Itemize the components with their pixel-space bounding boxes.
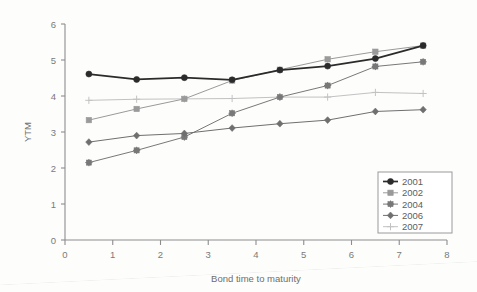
marker-circle — [277, 67, 283, 73]
data-point-2006-4.5 — [277, 120, 283, 127]
y-tick-label-6: 6 — [51, 19, 56, 30]
legend-marker-2002 — [388, 190, 393, 195]
marker-circle — [372, 56, 378, 62]
y-tick-label-4: 4 — [51, 91, 56, 102]
x-tick-label-8: 8 — [444, 249, 449, 260]
x-tick-label-1: 1 — [110, 249, 115, 260]
data-point-2004-4.5 — [276, 93, 283, 100]
x-tick-label-7: 7 — [397, 249, 402, 260]
data-point-2006-7.5 — [420, 106, 426, 113]
marker-diamond — [277, 120, 283, 127]
marker-diamond — [372, 108, 378, 115]
y-axis-title: YTM — [22, 122, 33, 142]
data-point-2007-0.5 — [85, 97, 92, 104]
series-2001 — [86, 43, 426, 83]
legend-label-2006: 2006 — [402, 210, 423, 221]
legend-label-2007: 2007 — [402, 221, 423, 232]
data-point-2006-5.5 — [324, 117, 330, 124]
marker-circle — [86, 71, 92, 77]
marker-square — [134, 106, 139, 111]
data-point-2004-6.5 — [372, 63, 379, 70]
data-point-2006-3.5 — [229, 125, 235, 132]
series-line-2006 — [89, 110, 423, 142]
marker-diamond — [86, 139, 92, 146]
x-tick-label-6: 6 — [349, 249, 354, 260]
data-point-2004-1.5 — [133, 147, 140, 154]
marker-diamond — [324, 117, 330, 124]
data-point-2001-6.5 — [372, 56, 378, 62]
data-point-2002-5.5 — [325, 57, 330, 62]
x-tick-label-2: 2 — [158, 249, 163, 260]
series-2006 — [86, 106, 427, 145]
data-point-2002-2.5 — [182, 96, 187, 101]
data-point-2001-0.5 — [86, 71, 92, 77]
legend-marker-2001 — [388, 179, 394, 185]
marker-circle — [388, 179, 394, 185]
data-point-2007-7.5 — [420, 90, 427, 97]
ytm-line-chart: 0123456012345678Bond time to maturityYTM… — [0, 0, 477, 292]
data-point-2006-0.5 — [86, 139, 92, 146]
data-point-2007-1.5 — [133, 96, 140, 103]
data-point-2001-4.5 — [277, 67, 283, 73]
legend-label-2001: 2001 — [402, 176, 423, 187]
y-tick-label-2: 2 — [51, 163, 56, 174]
legend-marker-2004 — [387, 201, 394, 208]
data-point-2002-6.5 — [373, 49, 378, 54]
y-tick-label-0: 0 — [51, 235, 56, 246]
marker-circle — [420, 43, 426, 49]
marker-square — [373, 49, 378, 54]
marker-square — [388, 190, 393, 195]
marker-circle — [325, 63, 331, 69]
marker-diamond — [420, 106, 426, 113]
series-2007 — [85, 89, 426, 104]
x-tick-label-4: 4 — [253, 249, 258, 260]
marker-circle — [229, 77, 235, 83]
chart-container: 0123456012345678Bond time to maturityYTM… — [0, 0, 477, 292]
x-tick-label-5: 5 — [301, 249, 306, 260]
y-tick-label-5: 5 — [51, 55, 56, 66]
data-point-2007-6.5 — [372, 89, 379, 96]
data-point-2001-3.5 — [229, 77, 235, 83]
marker-diamond — [229, 125, 235, 132]
data-point-2006-1.5 — [133, 132, 139, 139]
data-point-2001-1.5 — [134, 76, 140, 82]
x-tick-label-0: 0 — [62, 249, 67, 260]
data-point-2004-3.5 — [229, 110, 236, 117]
data-point-2004-7.5 — [420, 58, 427, 65]
data-point-2006-6.5 — [372, 108, 378, 115]
data-point-2001-7.5 — [420, 43, 426, 49]
marker-diamond — [133, 132, 139, 139]
y-tick-label-1: 1 — [51, 199, 56, 210]
legend-label-2002: 2002 — [402, 187, 423, 198]
data-point-2001-2.5 — [181, 75, 187, 81]
data-point-2002-0.5 — [86, 117, 91, 122]
marker-circle — [181, 75, 187, 81]
y-tick-label-3: 3 — [51, 127, 56, 138]
legend[interactable]: 20012002200420062007 — [378, 172, 452, 233]
marker-square — [86, 117, 91, 122]
data-point-2001-5.5 — [325, 63, 331, 69]
data-point-2004-5.5 — [324, 82, 331, 89]
data-point-2004-0.5 — [85, 159, 92, 166]
data-point-2007-3.5 — [229, 95, 236, 102]
marker-circle — [134, 76, 140, 82]
data-point-2007-5.5 — [324, 93, 331, 100]
data-point-2002-1.5 — [134, 106, 139, 111]
x-axis-title: Bond time to maturity — [211, 273, 301, 284]
legend-label-2004: 2004 — [402, 199, 423, 210]
x-tick-label-3: 3 — [206, 249, 211, 260]
marker-square — [182, 96, 187, 101]
marker-square — [325, 57, 330, 62]
